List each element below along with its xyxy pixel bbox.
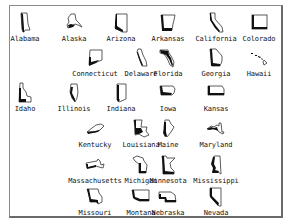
- florida-state-icon: [157, 47, 179, 69]
- icon-label: Nevada: [183, 209, 249, 217]
- idaho-state-icon: [14, 82, 36, 104]
- icon-hawaii[interactable]: Hawaii: [232, 47, 286, 81]
- icon-label: Maryland: [183, 141, 249, 149]
- icon-label: Mississippi: [183, 177, 249, 185]
- minnesota-state-icon: [157, 154, 179, 176]
- icon-label: Hawaii: [226, 70, 289, 78]
- mississippi-state-icon: [205, 154, 227, 176]
- icon-colorado[interactable]: Colorado: [232, 12, 286, 46]
- california-state-icon: [205, 12, 227, 34]
- icon-nevada[interactable]: Nevada: [189, 186, 243, 220]
- arizona-state-icon: [110, 12, 132, 34]
- icon-label: Colorado: [226, 35, 289, 43]
- arkansas-state-icon: [157, 12, 179, 34]
- icon-maryland[interactable]: Maryland: [189, 118, 243, 152]
- maryland-state-icon: [205, 118, 227, 140]
- icon-window: Alabama Alaska Arizona Arkansas Californ…: [9, 5, 283, 218]
- kansas-state-icon: [205, 82, 227, 104]
- icon-label: Kansas: [183, 105, 249, 113]
- icon-mississippi[interactable]: Mississippi: [189, 154, 243, 188]
- hawaii-state-icon: [248, 47, 270, 69]
- icon-kansas[interactable]: Kansas: [189, 82, 243, 116]
- massachusetts-state-icon: [84, 154, 106, 176]
- kentucky-state-icon: [84, 118, 106, 140]
- alabama-state-icon: [14, 12, 36, 34]
- connecticut-state-icon: [84, 47, 106, 69]
- maine-state-icon: [157, 118, 179, 140]
- nevada-state-icon: [205, 186, 227, 208]
- alaska-state-icon: [63, 12, 85, 34]
- illinois-state-icon: [63, 82, 85, 104]
- georgia-state-icon: [205, 47, 227, 69]
- colorado-state-icon: [248, 12, 270, 34]
- nebraska-state-icon: [157, 186, 179, 208]
- missouri-state-icon: [84, 186, 106, 208]
- iowa-state-icon: [157, 82, 179, 104]
- indiana-state-icon: [110, 82, 132, 104]
